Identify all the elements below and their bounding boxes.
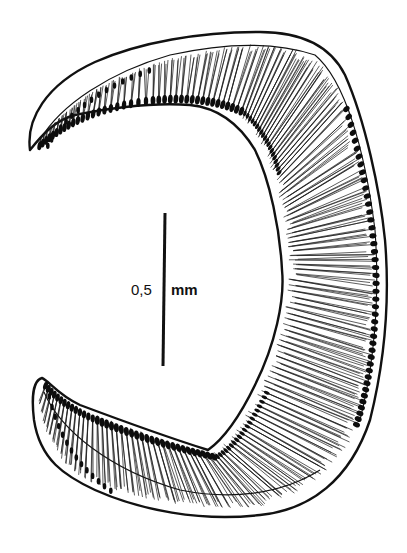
cell-nucleus <box>64 118 68 124</box>
cell-nucleus <box>130 74 134 80</box>
scale-bar-group: 0,5 mm <box>131 213 198 366</box>
cell-nucleus <box>57 423 61 429</box>
tissue-section-figure: 0,5 mm <box>0 0 407 553</box>
cell-nucleus <box>90 97 94 103</box>
scale-bar <box>163 213 165 366</box>
cell-nucleus <box>371 257 378 262</box>
cell-nucleus <box>50 404 54 410</box>
cell-nucleus <box>70 447 74 453</box>
cell-nucleus <box>80 461 84 467</box>
cell-nucleus <box>50 136 54 142</box>
cell-nucleus <box>105 87 109 93</box>
cell-nucleus <box>75 116 81 126</box>
cell-nucleus <box>75 454 79 460</box>
cell-nucleus <box>54 130 58 136</box>
cell-nucleus <box>97 92 101 98</box>
cell-nucleus <box>83 102 87 108</box>
cell-nucleus <box>59 124 63 130</box>
cell-nucleus <box>47 393 51 399</box>
cell-nucleus <box>65 440 69 446</box>
cell-nucleus <box>70 118 76 128</box>
cell-nucleus <box>91 473 95 479</box>
scale-value-label: 0,5 <box>131 281 152 298</box>
cell-nucleus <box>85 467 89 473</box>
cell-nucleus <box>148 67 152 73</box>
cell-nucleus <box>113 82 117 88</box>
cell-nucleus <box>53 414 57 420</box>
cell-nucleus <box>103 483 107 489</box>
cell-nucleus <box>76 107 80 113</box>
cell-nucleus <box>121 78 125 84</box>
cell-nucleus <box>70 113 74 119</box>
cell-nucleus <box>97 478 101 484</box>
scale-unit-label: mm <box>171 281 198 298</box>
cell-nucleus <box>109 488 113 494</box>
cell-nucleus <box>46 143 50 149</box>
cell-nucleus <box>138 71 142 77</box>
cell-nucleus <box>61 432 65 438</box>
